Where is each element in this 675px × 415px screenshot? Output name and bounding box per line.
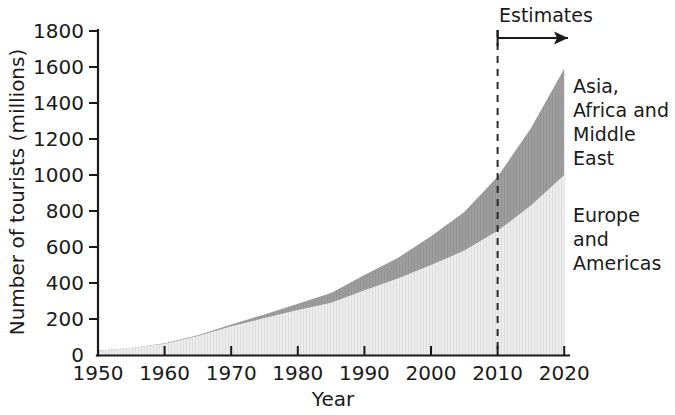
y-tick-label: 400 xyxy=(46,271,84,295)
y-tick-label: 1200 xyxy=(33,127,84,151)
x-tick-label: 1950 xyxy=(73,361,124,385)
x-tick-label: 2000 xyxy=(406,361,457,385)
tourism-area-chart: 1800 1600 1400 1200 1000 800 600 400 200… xyxy=(0,0,675,415)
series-label-line: East xyxy=(573,147,614,169)
x-tick-label: 1980 xyxy=(272,361,323,385)
series-label-line: Africa and xyxy=(573,99,669,121)
y-tick-label: 800 xyxy=(46,199,84,223)
series-label-line: and xyxy=(573,228,609,250)
x-axis-title: Year xyxy=(311,387,355,411)
series-label-line: Americas xyxy=(573,252,661,274)
series-label-line: Europe xyxy=(573,204,640,226)
x-tick-label: 1990 xyxy=(339,361,390,385)
series-label-line: Asia, xyxy=(573,75,619,97)
y-tick-label: 1800 xyxy=(33,19,84,43)
x-tick-label: 1960 xyxy=(139,361,190,385)
y-tick-label: 1600 xyxy=(33,55,84,79)
y-tick-label: 1400 xyxy=(33,91,84,115)
chart-canvas: 1800 1600 1400 1200 1000 800 600 400 200… xyxy=(0,0,675,415)
series-label-line: Middle xyxy=(573,123,636,145)
estimates-label: Estimates xyxy=(499,4,593,26)
x-tick-label: 2020 xyxy=(539,361,590,385)
y-tick-label: 200 xyxy=(46,307,84,331)
y-tick-label: 600 xyxy=(46,235,84,259)
y-tick-label: 1000 xyxy=(33,163,84,187)
y-axis-title: Number of tourists (millions) xyxy=(5,49,29,336)
x-tick-label: 1970 xyxy=(206,361,257,385)
x-tick-label: 2010 xyxy=(472,361,523,385)
